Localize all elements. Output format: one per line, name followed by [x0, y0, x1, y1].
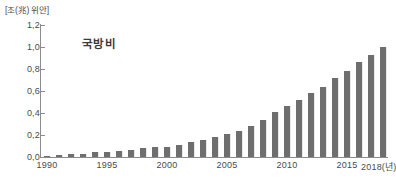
y-tick-mark [40, 47, 45, 48]
x-tick-label: 1990 [37, 160, 58, 170]
defense-budget-bar-chart: [조(兆) 위안] 국방비 0,00,20,40,60,81,01,2 1990… [0, 0, 396, 187]
x-tick-label: 2010 [277, 160, 298, 170]
x-tick-label: 2005 [217, 160, 238, 170]
y-tick-mark [40, 135, 45, 136]
x-tick-label: 1995 [97, 160, 118, 170]
x-tick-label: 2000 [157, 160, 178, 170]
y-tick-mark [40, 69, 45, 70]
y-tick-mark [40, 113, 45, 114]
x-axis-labels: 1990199520002005201020152018(년) [0, 0, 396, 187]
y-tick-mark [40, 91, 45, 92]
x-tick-label: 2018(년) [361, 160, 396, 173]
y-tick-mark [40, 25, 45, 26]
x-tick-label: 2015 [337, 160, 358, 170]
y-tick-mark [40, 157, 45, 158]
